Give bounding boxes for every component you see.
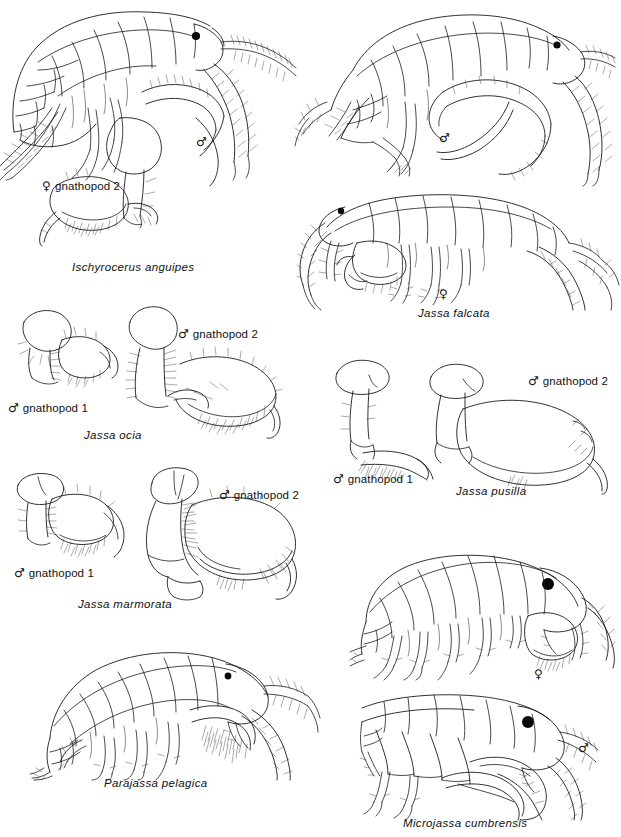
label-jassa-ocia-gnathopod-1: ♂gnathopod 1	[8, 402, 88, 415]
species-name-ischyrocerus-anguipes: Ischyrocerus anguipes	[72, 262, 194, 274]
species-name-parajassa-pelagica: Parajassa pelagica	[104, 778, 207, 790]
species-name-jassa-pusilla: Jassa pusilla	[456, 486, 526, 498]
label-text-marmorata-gnathopod-1: gnathopod 1	[29, 567, 94, 579]
sex-symbol-male-inline-marmorata-2: ♂	[219, 488, 230, 502]
label-jassa-ocia-gnathopod-2: ♂gnathopod 2	[178, 328, 258, 341]
label-text-gnathopod-2: gnathopod 2	[55, 180, 120, 192]
sex-symbol-male-inline-marmorata-1: ♂	[14, 566, 25, 580]
species-name-jassa-ocia: Jassa ocia	[84, 430, 142, 442]
panel-microjassa-cumbrensis: ♀	[340, 550, 621, 837]
label-text-ocia-gnathopod-2: gnathopod 2	[193, 328, 258, 340]
sex-symbol-male-inline-pusilla-1: ♂	[333, 472, 344, 486]
figure-jassa-falcata-male-habitus	[295, 6, 621, 186]
species-name-jassa-marmorata: Jassa marmorata	[78, 599, 172, 611]
sex-symbol-male-inline-ocia-1: ♂	[8, 401, 19, 415]
label-jassa-marmorata-gnathopod-1: ♂gnathopod 1	[14, 567, 94, 580]
species-name-microjassa-cumbrensis: Microjassa cumbrensis	[403, 818, 527, 830]
figure-jassa-marmorata-male-gnathopod2	[140, 463, 300, 603]
figure-jassa-ocia-male-gnathopod1	[8, 308, 128, 398]
figure-parajassa-whole-animal	[30, 640, 320, 780]
figure-jassa-ocia-male-gnathopod2	[118, 304, 293, 439]
label-jassa-pusilla-gnathopod-1: ♂gnathopod 1	[333, 473, 413, 486]
panel-parajassa-pelagica: Parajassa pelagica	[30, 630, 330, 810]
sex-symbol-male-inline-ocia-2: ♂	[178, 327, 189, 341]
label-text-ocia-gnathopod-1: gnathopod 1	[23, 402, 88, 414]
panel-jassa-falcata: ♂	[295, 0, 621, 330]
panel-jassa-ocia: ♂gnathopod 1 ♂gnathopod 2 Jassa ocia	[0, 300, 300, 450]
label-jassa-pusilla-gnathopod-2: ♂gnathopod 2	[528, 375, 608, 388]
sex-symbol-male-falcata: ♂	[439, 132, 450, 144]
illustration-plate: ♂	[0, 0, 621, 837]
label-text-pusilla-gnathopod-2: gnathopod 2	[543, 375, 608, 387]
species-name-jassa-falcata: Jassa falcata	[418, 308, 490, 320]
sex-symbol-female-microjassa: ♀	[534, 668, 543, 680]
sex-symbol-male-inline-pusilla-2: ♂	[528, 374, 539, 388]
panel-jassa-pusilla: ♂gnathopod 1 ♂gnathopod 2 Jassa pusilla	[315, 355, 621, 505]
sex-symbol-female-inline: ♀	[42, 179, 51, 193]
figure-jassa-marmorata-male-gnathopod1	[8, 469, 138, 569]
sex-symbol-male-microjassa: ♂	[578, 742, 589, 754]
label-ischyrocerus-gnathopod-2: ♀gnathopod 2	[42, 180, 120, 193]
label-jassa-marmorata-gnathopod-2: ♂gnathopod 2	[219, 489, 299, 502]
figure-microjassa-male-habitus	[358, 690, 608, 820]
label-text-marmorata-gnathopod-2: gnathopod 2	[234, 489, 299, 501]
label-text-pusilla-gnathopod-1: gnathopod 1	[348, 473, 413, 485]
figure-microjassa-female-habitus	[350, 550, 615, 680]
sex-symbol-female-falcata: ♀	[439, 288, 448, 300]
panel-ischyrocerus-anguipes: ♂	[0, 0, 300, 290]
figure-jassa-falcata-female-habitus	[297, 185, 621, 310]
panel-jassa-marmorata: ♂gnathopod 1 ♂gnathopod 2 Jassa marmorat…	[0, 463, 300, 618]
